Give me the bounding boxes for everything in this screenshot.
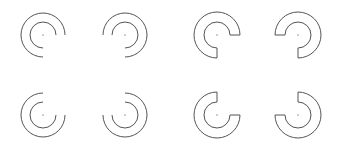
arcs-top-right-double-arc-shape xyxy=(103,13,147,57)
sector-bottom-left-annular-sector-shape xyxy=(194,92,240,138)
center-dot xyxy=(216,34,217,35)
diagram-canvas xyxy=(0,0,343,148)
center-dot xyxy=(297,34,298,35)
sector-top-left-annular-sector-shape xyxy=(194,12,240,58)
sector-top-right-annular-sector-shape xyxy=(275,12,321,58)
shapes-layer xyxy=(21,12,321,138)
center-dot xyxy=(42,34,43,35)
arcs-top-left-double-arc-shape xyxy=(21,13,65,57)
center-dot xyxy=(42,114,43,115)
center-dot xyxy=(124,34,125,35)
arcs-bottom-left-double-arc-shape xyxy=(21,93,65,137)
sector-bottom-right-annular-sector-shape xyxy=(275,92,321,138)
center-dot xyxy=(124,114,125,115)
arcs-bottom-right-double-arc-shape xyxy=(103,93,147,137)
center-dot xyxy=(297,114,298,115)
center-dot xyxy=(216,114,217,115)
